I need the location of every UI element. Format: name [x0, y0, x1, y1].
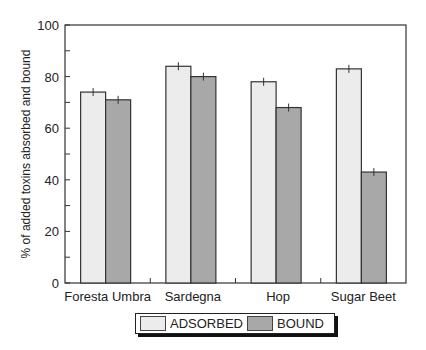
legend-label-adsorbed: ADSORBED: [170, 316, 243, 331]
bar-bound: [361, 172, 386, 283]
y-tick-label: 60: [45, 121, 59, 136]
bar-bound: [191, 77, 216, 283]
bar-adsorbed: [166, 66, 191, 283]
y-axis-label: % of added toxins absorbed and bound: [19, 50, 33, 259]
plot-area: 020406080100Foresta UmbraSardegnaHopSuga…: [37, 18, 406, 304]
bar-adsorbed: [81, 92, 106, 283]
legend-label-bound: BOUND: [277, 316, 324, 331]
legend: ADSORBED BOUND: [135, 313, 335, 334]
y-tick-label: 0: [52, 276, 59, 291]
bar-bound: [276, 108, 301, 283]
bar-bound: [106, 100, 131, 283]
y-tick-label: 40: [45, 173, 59, 188]
y-tick-label: 100: [37, 18, 59, 33]
x-category-label: Hop: [266, 289, 290, 304]
x-category-label: Sardegna: [165, 289, 222, 304]
legend-swatch-bound: [247, 316, 273, 331]
bar-chart: 020406080100Foresta UmbraSardegnaHopSuga…: [0, 0, 426, 350]
y-tick-label: 20: [45, 224, 59, 239]
legend-item-adsorbed: ADSORBED: [136, 316, 243, 331]
legend-item-bound: BOUND: [243, 316, 324, 331]
bar-adsorbed: [251, 82, 276, 283]
x-category-label: Foresta Umbra: [64, 289, 151, 304]
x-category-label: Sugar Beet: [331, 289, 396, 304]
bar-adsorbed: [336, 69, 361, 283]
y-tick-label: 80: [45, 70, 59, 85]
legend-swatch-adsorbed: [140, 316, 166, 331]
